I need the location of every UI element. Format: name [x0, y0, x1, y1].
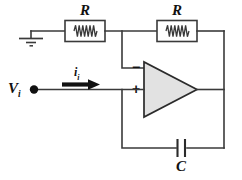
operational-amplifier: [144, 62, 197, 117]
input-node-dot: [30, 85, 38, 93]
circuit-canvas: R R − +: [0, 0, 242, 180]
resistor-feedback-label: R: [171, 2, 182, 18]
input-current-subscript: i: [77, 73, 79, 82]
resistor-input: [65, 21, 105, 42]
resistor-feedback: [157, 21, 197, 42]
input-voltage-label: Vi: [8, 80, 21, 100]
ground-symbol: [19, 31, 43, 46]
inverting-input-sign: −: [132, 59, 140, 75]
current-arrow-icon: [62, 79, 100, 89]
input-voltage-symbol: V: [8, 80, 18, 96]
input-current-label: ii: [74, 63, 80, 82]
capacitor: [178, 139, 186, 157]
resistor-input-label: R: [79, 2, 90, 18]
circuit-diagram: R R − +: [0, 0, 242, 180]
input-voltage-subscript: i: [18, 89, 21, 99]
capacitor-label: C: [176, 158, 186, 174]
capacitor-symbol: C: [176, 158, 186, 174]
